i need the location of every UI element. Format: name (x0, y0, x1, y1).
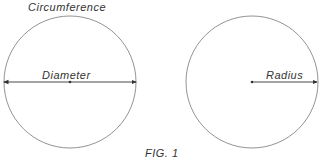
diameter-label: Diameter (42, 69, 91, 81)
radius-diagram: Radius (186, 16, 318, 148)
figure-canvas: Circumference Diameter Radius FIG. 1 (0, 0, 320, 161)
circumference-label: Circumference (28, 1, 106, 13)
circumference-diagram: Circumference Diameter (4, 1, 136, 148)
radius-label: Radius (266, 69, 303, 81)
figure-caption: FIG. 1 (145, 147, 179, 159)
right-center-dot (251, 81, 254, 84)
left-center-dot (69, 81, 72, 84)
